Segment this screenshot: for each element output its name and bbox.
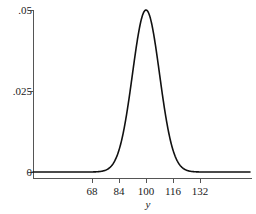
x-axis-title: y	[146, 199, 151, 210]
x-tick-label-84: 84	[114, 186, 125, 197]
y-tick-label-top: .05	[18, 5, 32, 16]
x-tick-label-68: 68	[87, 186, 98, 197]
x-tick-label-132: 132	[192, 186, 209, 197]
density-curve	[33, 10, 250, 172]
x-tick-marks	[92, 178, 200, 183]
x-tick-label-116: 116	[165, 186, 181, 197]
x-tick-label-100: 100	[138, 186, 155, 197]
y-tick-label-mid: .025	[13, 86, 32, 97]
y-tick-label-bottom: 0	[27, 167, 33, 178]
plot-area	[0, 0, 256, 214]
chart-container: .05 .025 0 68 84 100 116 132 y	[0, 0, 256, 214]
